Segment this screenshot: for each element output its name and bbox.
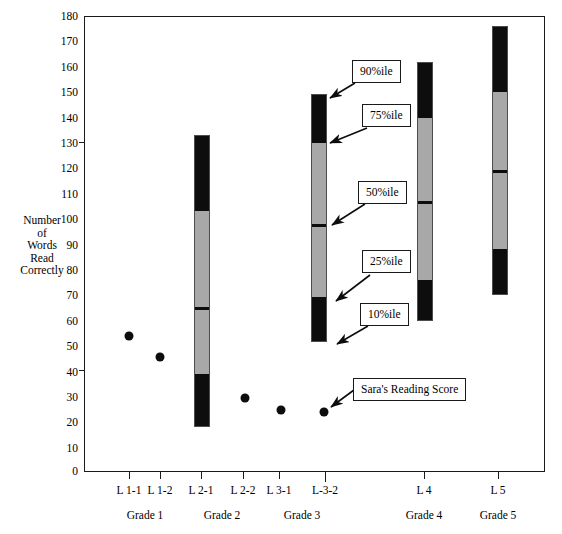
callout-75-percentile: 75%ile bbox=[362, 104, 411, 127]
bar-l2-1-segment-p25-p75 bbox=[194, 211, 210, 307]
group-label-grade-5: Grade 5 bbox=[480, 509, 517, 521]
y-tick-label-180: 180 bbox=[52, 11, 78, 23]
bar-l5-segment-p10-p25 bbox=[492, 249, 508, 295]
bar-l3-2-segment-p10-p25 bbox=[311, 297, 327, 342]
y-tick-label-150: 150 bbox=[52, 87, 78, 99]
callout-saras-reading-score: Sara's Reading Score bbox=[353, 378, 466, 401]
bar-l5-segment-p75-p90 bbox=[492, 26, 508, 92]
x-tick-mark-l3-2 bbox=[325, 472, 326, 482]
y-tick-label-0: 0 bbox=[52, 466, 78, 478]
y-tick-label-110: 110 bbox=[52, 189, 78, 201]
y-tick-label-20: 20 bbox=[52, 417, 78, 429]
y-axis-title-line-2: of bbox=[8, 227, 76, 240]
y-tick-label-50: 50 bbox=[52, 341, 78, 353]
y-tick-label-170: 170 bbox=[52, 36, 78, 48]
bar-l5-segment-p25-p50 bbox=[492, 173, 508, 249]
x-tick-label-l1-1: L 1-1 bbox=[117, 484, 142, 496]
y-tick-label-90: 90 bbox=[52, 240, 78, 252]
x-tick-label-l3-2: L-3-2 bbox=[312, 484, 338, 496]
bar-l3-2-segment-p50-p75 bbox=[311, 143, 327, 224]
x-tick-mark-l2-2 bbox=[243, 472, 244, 479]
score-point-l1-1 bbox=[125, 332, 134, 341]
callout-90-percentile: 90%ile bbox=[352, 60, 401, 83]
reading-score-chart: Number of Words Read Correctly 180 170 1… bbox=[0, 0, 562, 534]
group-label-grade-2: Grade 2 bbox=[204, 509, 241, 521]
x-tick-mark-l1-2 bbox=[160, 472, 161, 479]
y-tick-label-30: 30 bbox=[52, 392, 78, 404]
callout-50-percentile: 50%ile bbox=[358, 181, 407, 204]
y-tick-label-130: 130 bbox=[52, 138, 78, 150]
percentile-bar-l4 bbox=[417, 62, 433, 321]
bar-l5-segment-p50-p75 bbox=[492, 92, 508, 170]
score-point-l3-2 bbox=[320, 408, 329, 417]
x-tick-label-l4: L 4 bbox=[416, 484, 431, 496]
callout-10-percentile: 10%ile bbox=[360, 303, 409, 326]
score-point-l3-1 bbox=[277, 406, 286, 415]
score-point-l2-1 bbox=[198, 376, 207, 385]
bar-l4-segment-p50-p75 bbox=[417, 118, 433, 201]
bar-l4-segment-p10-p25 bbox=[417, 280, 433, 321]
x-tick-label-l2-1: L 2-1 bbox=[189, 484, 214, 496]
bar-l3-2-segment-p75-p90 bbox=[311, 94, 327, 143]
y-tick-label-10: 10 bbox=[52, 443, 78, 455]
bar-l4-segment-p75-p90 bbox=[417, 62, 433, 118]
y-tick-label-120: 120 bbox=[52, 163, 78, 175]
y-tick-label-40: 40 bbox=[52, 367, 78, 379]
bar-l3-2-segment-p25-p50 bbox=[311, 227, 327, 297]
x-tick-label-l5: L 5 bbox=[490, 484, 505, 496]
group-label-grade-3: Grade 3 bbox=[284, 509, 321, 521]
bar-l2-1-segment-lower bbox=[194, 310, 210, 374]
bar-l4-segment-p25-p50 bbox=[417, 204, 433, 280]
x-tick-label-l3-1: L 3-1 bbox=[267, 484, 292, 496]
score-point-l1-2 bbox=[156, 353, 165, 362]
callout-25-percentile: 25%ile bbox=[362, 250, 411, 273]
y-tick-label-140: 140 bbox=[52, 113, 78, 125]
y-axis-title-line-4: Read bbox=[8, 252, 76, 265]
x-tick-mark-l3-1 bbox=[279, 472, 280, 479]
y-tick-label-70: 70 bbox=[52, 290, 78, 302]
bar-l2-1-segment-p75-p90 bbox=[194, 135, 210, 211]
group-label-grade-4: Grade 4 bbox=[406, 509, 443, 521]
y-tick-label-100: 100 bbox=[52, 214, 78, 226]
x-tick-mark-l1-1 bbox=[129, 472, 130, 479]
percentile-bar-l5 bbox=[492, 26, 508, 295]
y-tick-label-160: 160 bbox=[52, 62, 78, 74]
group-label-grade-1: Grade 1 bbox=[127, 509, 164, 521]
x-tick-mark-l2-1 bbox=[201, 472, 202, 479]
x-tick-mark-l4 bbox=[424, 472, 425, 479]
y-tick-label-60: 60 bbox=[52, 316, 78, 328]
score-point-l2-2 bbox=[241, 394, 250, 403]
x-tick-label-l1-2: L 1-2 bbox=[148, 484, 173, 496]
percentile-bar-l3-2 bbox=[311, 94, 327, 342]
y-tick-label-80: 80 bbox=[52, 265, 78, 277]
x-tick-label-l2-2: L 2-2 bbox=[231, 484, 256, 496]
x-tick-mark-l5 bbox=[498, 472, 499, 479]
